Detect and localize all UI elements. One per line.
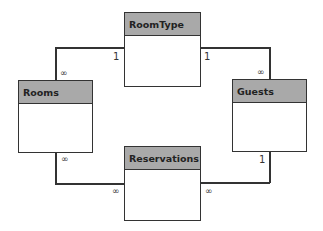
cardinality-many-rooms-roomtype: ∞ [60, 68, 68, 78]
connector-roomtype-guests-v [269, 47, 271, 80]
cardinality-many-rooms-reservations: ∞ [61, 154, 69, 164]
entity-guests-header: Guests [233, 80, 306, 103]
connector-guests-reservations-h [199, 182, 270, 184]
entity-roomtype[interactable]: RoomType [124, 12, 201, 87]
entity-reservations-header: Reservations [125, 147, 200, 170]
connector-guests-reservations-v [269, 150, 271, 183]
entity-guests[interactable]: Guests [232, 79, 307, 152]
connector-rooms-reservations-v [55, 151, 57, 184]
entity-roomtype-header: RoomType [125, 13, 200, 36]
cardinality-many-reservations-rooms: ∞ [112, 186, 120, 196]
cardinality-many-guests-roomtype: ∞ [257, 67, 265, 77]
cardinality-one-guests-reservations: 1 [259, 155, 265, 165]
connector-rooms-reservations-h [55, 183, 125, 185]
entity-rooms[interactable]: Rooms [18, 80, 93, 153]
connector-roomtype-guests-h [199, 47, 270, 49]
cardinality-one-roomtype-guests: 1 [204, 52, 210, 62]
connector-roomtype-rooms-h [55, 47, 125, 49]
entity-rooms-header: Rooms [19, 81, 92, 104]
entity-reservations[interactable]: Reservations [124, 146, 201, 221]
cardinality-many-reservations-guests: ∞ [205, 186, 213, 196]
connector-roomtype-rooms-v [55, 47, 57, 81]
cardinality-one-roomtype-rooms: 1 [113, 52, 119, 62]
